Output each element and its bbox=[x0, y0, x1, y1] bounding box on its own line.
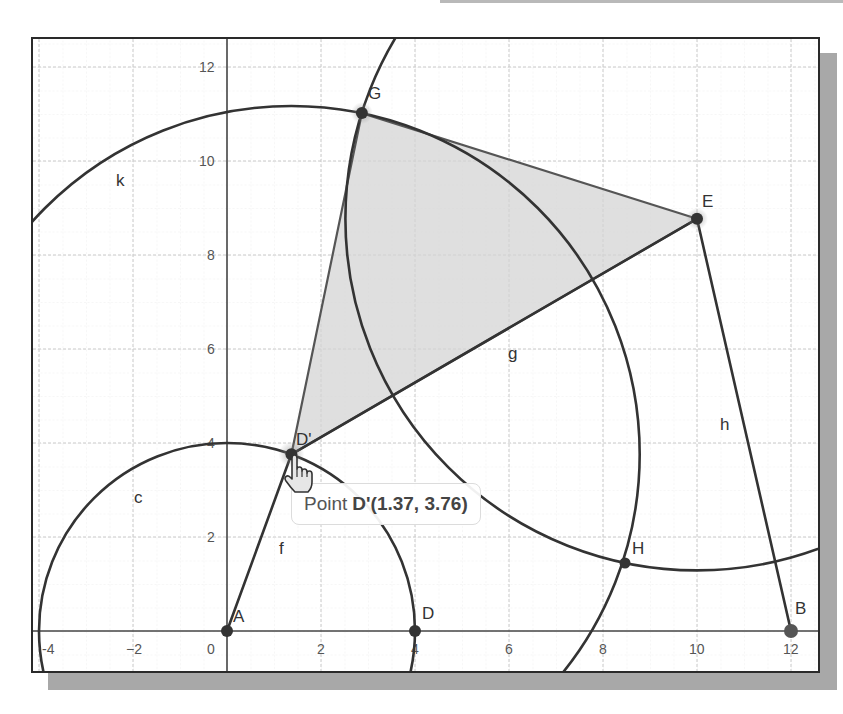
label-f: f bbox=[279, 539, 284, 558]
tooltip-prefix: Point bbox=[304, 493, 347, 515]
tooltip-value: D'(1.37, 3.76) bbox=[352, 493, 467, 515]
label-c: c bbox=[134, 488, 143, 507]
label-point-h: H bbox=[632, 539, 644, 558]
x-tick-label: 10 bbox=[689, 641, 705, 657]
x-tick-label: 12 bbox=[783, 641, 799, 657]
point-tooltip: Point D'(1.37, 3.76) bbox=[291, 483, 481, 525]
y-tick-label: 12 bbox=[199, 59, 215, 75]
label-h: h bbox=[720, 415, 729, 434]
label-point-a: A bbox=[233, 607, 245, 626]
label-k: k bbox=[116, 171, 125, 190]
label-point-b: B bbox=[795, 599, 806, 618]
x-tick-label: 0 bbox=[207, 641, 215, 657]
y-tick-label: 2 bbox=[207, 529, 215, 545]
graphics-canvas[interactable]: -4 −2 0 2 4 6 8 10 12 2 4 6 8 10 12 bbox=[33, 39, 820, 673]
label-point-g: G bbox=[368, 84, 381, 103]
y-tick-label: 8 bbox=[207, 247, 215, 263]
x-tick-label: 8 bbox=[599, 641, 607, 657]
label-point-d-prime: D' bbox=[296, 430, 312, 449]
point-h[interactable] bbox=[620, 558, 631, 569]
y-tick-label: 10 bbox=[199, 153, 215, 169]
x-tick-label: 2 bbox=[317, 641, 325, 657]
pointing-hand-cursor-icon bbox=[283, 454, 317, 494]
point-b[interactable] bbox=[784, 624, 798, 638]
label-point-e: E bbox=[702, 192, 713, 211]
label-point-d: D bbox=[422, 604, 434, 623]
point-d[interactable] bbox=[409, 625, 421, 637]
y-tick-label: 6 bbox=[207, 341, 215, 357]
point-e[interactable] bbox=[691, 213, 703, 225]
x-tick-label: −2 bbox=[126, 641, 142, 657]
label-g: g bbox=[508, 344, 517, 363]
point-a[interactable] bbox=[221, 625, 233, 637]
graphics-view[interactable]: -4 −2 0 2 4 6 8 10 12 2 4 6 8 10 12 bbox=[31, 37, 820, 673]
x-tick-label: 6 bbox=[505, 641, 513, 657]
top-bar bbox=[440, 0, 843, 3]
point-g[interactable] bbox=[356, 107, 368, 119]
x-tick-label: -4 bbox=[42, 641, 55, 657]
